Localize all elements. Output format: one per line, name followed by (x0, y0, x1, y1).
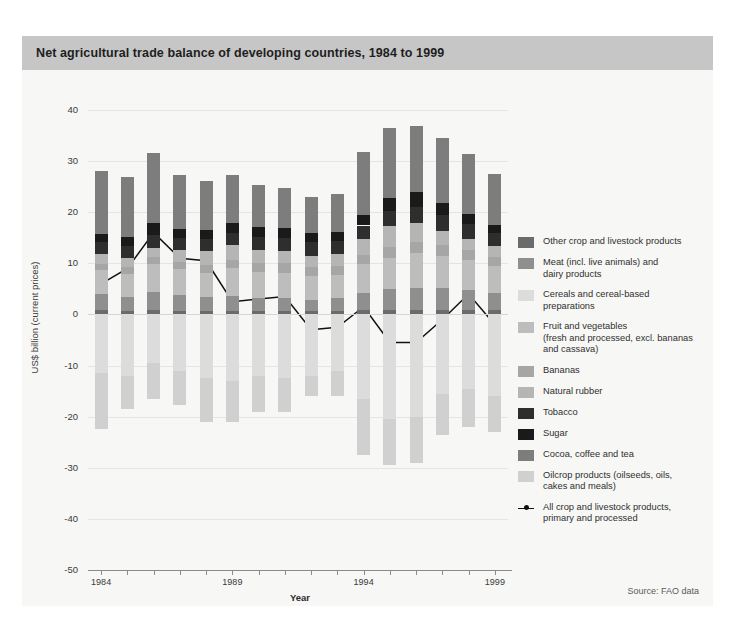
x-axis-tick (442, 570, 443, 575)
bar-segment (173, 262, 186, 269)
bar-segment (252, 272, 265, 298)
bar-column[interactable] (173, 110, 186, 570)
bar-segment (357, 255, 370, 265)
bar-segment (173, 229, 186, 239)
legend-item[interactable]: Oilcrop products (oilseeds, oils, cakes … (518, 470, 714, 493)
x-axis-tick (337, 570, 338, 575)
bar-segment (410, 253, 423, 288)
bar-column[interactable] (95, 110, 108, 570)
bar-column[interactable] (305, 110, 318, 570)
legend-item[interactable]: Other crop and livestock products (518, 236, 714, 248)
bar-segment (462, 250, 475, 260)
legend-swatch (518, 429, 534, 440)
legend-item[interactable]: Fruit and vegetables (fresh and processe… (518, 321, 714, 356)
legend-swatch (518, 237, 534, 248)
bar-segment (173, 175, 186, 229)
bar-segment (226, 233, 239, 245)
bar-segment (200, 239, 213, 251)
bar-segment (436, 288, 449, 309)
bar-segment (383, 226, 396, 247)
bar-segment (95, 373, 108, 429)
bar-segment (121, 314, 134, 375)
bar-segment (278, 314, 291, 378)
legend-swatch (518, 322, 534, 333)
bar-segment (121, 258, 134, 267)
bar-segment (436, 394, 449, 435)
bar-column[interactable] (357, 110, 370, 570)
bar-segment (462, 239, 475, 250)
bar-segment (436, 138, 449, 203)
legend-item[interactable]: Tobacco (518, 407, 714, 419)
bar-column[interactable] (200, 110, 213, 570)
y-axis-tick-label: -50 (44, 564, 78, 575)
bar-column[interactable] (147, 110, 160, 570)
bar-segment (200, 297, 213, 311)
bar-segment (200, 314, 213, 378)
bar-column[interactable] (488, 110, 501, 570)
plot-area (88, 110, 508, 570)
bar-segment (278, 188, 291, 227)
bar-column[interactable] (383, 110, 396, 570)
bar-segment (488, 257, 501, 266)
bar-segment (331, 232, 344, 241)
bar-column[interactable] (226, 110, 239, 570)
bar-segment (436, 203, 449, 215)
legend-label: Natural rubber (543, 386, 602, 398)
bar-segment (278, 298, 291, 311)
bar-segment (121, 177, 134, 237)
bar-segment (383, 211, 396, 226)
chart-title-bar: Net agricultural trade balance of develo… (22, 36, 713, 70)
bar-segment (331, 314, 344, 370)
bar-column[interactable] (436, 110, 449, 570)
legend-item[interactable]: Bananas (518, 365, 714, 377)
legend-label: Cereals and cereal-based preparations (543, 289, 649, 312)
bar-segment (200, 230, 213, 239)
bar-segment (305, 276, 318, 300)
bar-segment (252, 237, 265, 249)
bar-column[interactable] (462, 110, 475, 570)
bar-segment (173, 250, 186, 262)
bar-segment (252, 250, 265, 263)
bar-column[interactable] (252, 110, 265, 570)
bar-segment (147, 248, 160, 257)
legend-item-line[interactable]: All crop and livestock products, primary… (518, 502, 714, 525)
bar-segment (305, 376, 318, 396)
bar-segment (278, 273, 291, 299)
legend-label: Other crop and livestock products (543, 236, 682, 248)
bar-column[interactable] (331, 110, 344, 570)
x-axis-tick (390, 570, 391, 575)
x-axis-line (88, 570, 512, 571)
bar-segment (173, 371, 186, 406)
bar-segment (147, 292, 160, 309)
bar-segment (173, 295, 186, 311)
legend-swatch (518, 450, 534, 461)
legend-item[interactable]: Meat (incl. live animals) and dairy prod… (518, 257, 714, 280)
bar-segment (488, 246, 501, 257)
x-axis-tick (416, 570, 417, 575)
bar-segment (331, 298, 344, 311)
bar-segment (252, 227, 265, 237)
bar-column[interactable] (410, 110, 423, 570)
x-axis-tick (495, 570, 496, 575)
bar-segment (226, 268, 239, 295)
bar-segment (121, 274, 134, 296)
legend-item[interactable]: Sugar (518, 428, 714, 440)
legend-swatch (518, 366, 534, 377)
bar-segment (226, 175, 239, 223)
bar-segment (121, 376, 134, 409)
legend-label: Meat (incl. live animals) and dairy prod… (543, 257, 658, 280)
x-axis-tick (285, 570, 286, 575)
bar-column[interactable] (278, 110, 291, 570)
bar-segment (200, 265, 213, 273)
legend-swatch (518, 471, 534, 482)
legend-item[interactable]: Cocoa, coffee and tea (518, 449, 714, 461)
bar-segment (252, 185, 265, 227)
legend-item[interactable]: Cereals and cereal-based preparations (518, 289, 714, 312)
bar-column[interactable] (121, 110, 134, 570)
bar-segment (383, 128, 396, 198)
legend-item[interactable]: Natural rubber (518, 386, 714, 398)
x-axis-tick (232, 570, 233, 575)
bar-segment (121, 246, 134, 258)
bar-segment (173, 238, 186, 250)
bar-segment (147, 223, 160, 234)
